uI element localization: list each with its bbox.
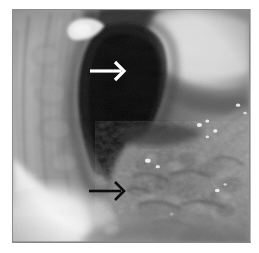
- photo-raster: [13, 10, 249, 242]
- frame-shadow-right: [249, 9, 251, 243]
- endoscopic-photo: [13, 10, 249, 242]
- photo-frame: [12, 9, 250, 243]
- endoscopy-figure: Grayscale endoscopic photograph of a lum…: [0, 0, 259, 253]
- frame-shadow-bottom: [12, 241, 251, 243]
- figure-alt-text: Grayscale endoscopic photograph of a lum…: [0, 0, 1, 1]
